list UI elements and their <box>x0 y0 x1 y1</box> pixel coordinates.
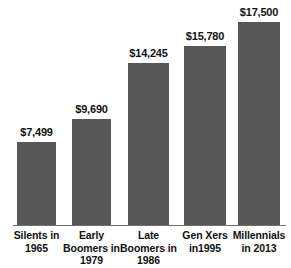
bar-group: $7,499 <box>17 0 56 226</box>
bar <box>184 46 226 226</box>
bar-value-label: $15,780 <box>186 31 224 42</box>
bar-chart: $7,499$9,690$14,245$15,780$17,500 Silent… <box>0 0 291 268</box>
plot-area: $7,499$9,690$14,245$15,780$17,500 <box>0 0 291 226</box>
bar-value-label: $14,245 <box>129 48 167 59</box>
bar-value-label: $9,690 <box>75 104 107 115</box>
category-labels: Silents in1965EarlyBoomers in1979LateBoo… <box>0 229 291 268</box>
bar-group: $14,245 <box>128 0 169 226</box>
bar-value-label: $7,499 <box>20 127 52 138</box>
bar <box>128 63 169 226</box>
bar <box>17 142 56 226</box>
category-label-line: Millennials <box>224 229 291 242</box>
bar <box>72 119 111 226</box>
x-axis-baseline <box>13 225 286 226</box>
bar <box>238 22 280 226</box>
bar-group: $15,780 <box>184 0 226 226</box>
category-label: Millennialsin 2013 <box>224 229 291 254</box>
bar-group: $17,500 <box>238 0 280 226</box>
bar-group: $9,690 <box>72 0 111 226</box>
category-label-line: in 2013 <box>224 242 291 255</box>
bar-value-label: $17,500 <box>240 7 278 18</box>
category-label-line: 1986 <box>115 254 182 267</box>
